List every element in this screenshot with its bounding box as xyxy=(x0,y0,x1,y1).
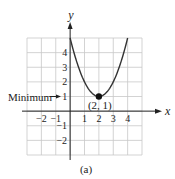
arrow-right-icon xyxy=(56,95,61,99)
plot-svg: x y −2−112344321−1−2 (2, 1) Minimum (a) xyxy=(0,0,175,179)
x-tick-label: −2 xyxy=(36,113,47,124)
parabola-figure: x y −2−112344321−1−2 (2, 1) Minimum (a) xyxy=(0,0,175,179)
y-axis-label: y xyxy=(67,8,74,22)
y-tick-label: −1 xyxy=(56,120,67,131)
x-tick-label: 2 xyxy=(96,113,101,124)
x-tick-label: 1 xyxy=(82,113,87,124)
minimum-annotation-label: Minimum xyxy=(8,91,52,103)
x-tick-label: 4 xyxy=(125,113,130,124)
y-tick-label: 3 xyxy=(62,62,67,73)
y-tick-label: 4 xyxy=(62,47,67,58)
y-axis-arrow-icon xyxy=(68,22,73,29)
x-axis-arrow-icon xyxy=(155,109,162,114)
axes: x y xyxy=(22,8,171,160)
figure-caption: (a) xyxy=(80,163,93,176)
y-tick-label: 2 xyxy=(62,76,67,87)
x-axis-label: x xyxy=(164,104,171,118)
y-tick-label: −2 xyxy=(56,135,67,146)
y-tick-label: 1 xyxy=(62,91,67,102)
minimum-point-label: (2, 1) xyxy=(88,99,112,112)
x-tick-label: 3 xyxy=(111,113,116,124)
